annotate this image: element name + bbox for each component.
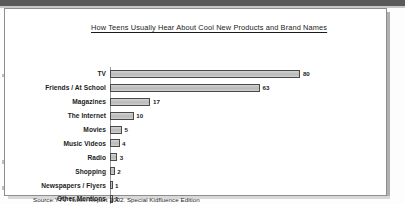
category-label: Movies bbox=[13, 126, 106, 133]
source-note: Source:YTV Tween Report 2002. Special Ki… bbox=[33, 196, 200, 203]
bar-container: 3 bbox=[110, 150, 123, 164]
category-label: Newspapers / Flyers bbox=[13, 182, 106, 189]
bar bbox=[110, 181, 113, 189]
bar-rows: TV80Friends / At School63Magazines17The … bbox=[13, 67, 405, 204]
bar-row: Magazines17 bbox=[13, 95, 405, 109]
bar-row: Movies5 bbox=[13, 123, 405, 137]
bar bbox=[110, 167, 115, 175]
bar-row: Shopping2 bbox=[13, 164, 405, 178]
bar-container: 63 bbox=[110, 81, 269, 95]
bar bbox=[110, 70, 300, 78]
figure-frame: How Teens Usually Hear About Cool New Pr… bbox=[4, 8, 387, 196]
bar-value-label: 5 bbox=[124, 126, 127, 133]
category-label: Friends / At School bbox=[13, 84, 106, 91]
bar-container: 10 bbox=[110, 109, 143, 123]
bar bbox=[110, 84, 260, 92]
bar-row: The Internet10 bbox=[13, 109, 405, 123]
bar-value-label: 4 bbox=[122, 140, 125, 147]
category-label: Music Videos bbox=[13, 140, 106, 147]
bar-value-label: 80 bbox=[303, 70, 310, 77]
bar-value-label: 10 bbox=[136, 112, 143, 119]
bar-value-label: 1 bbox=[115, 182, 118, 189]
scan-speck bbox=[2, 160, 4, 164]
bar-row: Newspapers / Flyers1 bbox=[13, 178, 405, 192]
bar-row: TV80 bbox=[13, 67, 405, 81]
screenshot-root: How Teens Usually Hear About Cool New Pr… bbox=[0, 0, 405, 204]
bar-container: 1 bbox=[110, 178, 118, 192]
bar-container: 80 bbox=[110, 67, 310, 81]
bar-value-label: 17 bbox=[153, 98, 160, 105]
bar-container: 5 bbox=[110, 123, 128, 137]
bar-row: Radio3 bbox=[13, 150, 405, 164]
bar bbox=[110, 153, 117, 161]
bar-value-label: 3 bbox=[120, 154, 123, 161]
bar-container: 4 bbox=[110, 136, 125, 150]
plot-area: TV80Friends / At School63Magazines17The … bbox=[13, 37, 388, 187]
category-label: The Internet bbox=[13, 112, 106, 119]
bar-container: 2 bbox=[110, 164, 121, 178]
bar-value-label: 2 bbox=[117, 168, 120, 175]
scan-speck bbox=[2, 74, 4, 77]
bar-row: Music Videos4 bbox=[13, 136, 405, 150]
bar-row: Friends / At School63 bbox=[13, 81, 405, 95]
category-label: Radio bbox=[13, 154, 106, 161]
bar bbox=[110, 98, 150, 106]
bar-value-label: 63 bbox=[262, 84, 269, 91]
category-label: Shopping bbox=[13, 168, 106, 175]
bar bbox=[110, 139, 120, 147]
category-label: TV bbox=[13, 70, 106, 77]
category-label: Magazines bbox=[13, 98, 106, 105]
scan-speck bbox=[2, 186, 4, 190]
bar bbox=[110, 126, 122, 134]
chart-title: How Teens Usually Hear About Cool New Pr… bbox=[91, 23, 327, 32]
bar bbox=[110, 112, 134, 120]
bar-container: 17 bbox=[110, 95, 160, 109]
